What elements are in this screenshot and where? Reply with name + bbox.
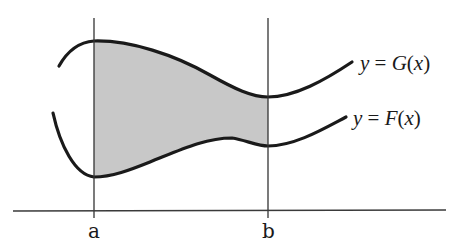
label-upper-curve: y = G(x) bbox=[358, 51, 430, 75]
x-axis bbox=[13, 210, 446, 211]
label-a: a bbox=[88, 219, 100, 243]
area-between-curves-diagram: a b y = G(x) y = F(x) bbox=[0, 0, 466, 248]
label-lower-curve: y = F(x) bbox=[351, 106, 421, 130]
label-b: b bbox=[262, 219, 275, 243]
